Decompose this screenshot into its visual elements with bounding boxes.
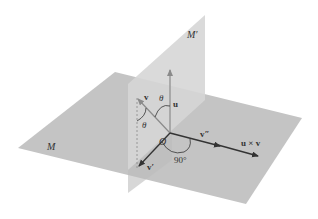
label-90-degrees: 90° [174, 155, 187, 165]
label-origin: O [159, 136, 166, 147]
label-theta-lower: θ [142, 120, 147, 130]
label-v: v [144, 92, 149, 102]
label-v-prime: v′ [147, 162, 154, 172]
label-m-prime: M′ [186, 29, 198, 40]
label-v-double-prime: v″ [200, 129, 210, 139]
label-theta-upper: θ [159, 93, 164, 103]
diagram-canvas: M′ M O u v v′ v″ u × v θ θ 90° [0, 0, 318, 219]
label-u: u [173, 99, 178, 109]
label-u-cross-v: u × v [241, 138, 261, 148]
label-m: M [46, 141, 56, 152]
